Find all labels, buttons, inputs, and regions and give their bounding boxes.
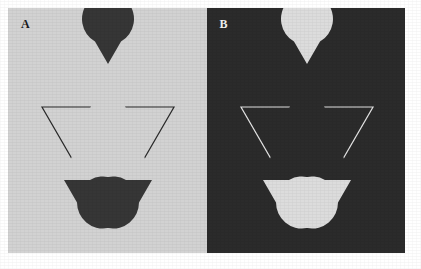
panel-label-b: B	[220, 18, 228, 30]
bottom-right-inducer-b	[286, 177, 351, 229]
top-inducer-a	[82, 8, 134, 64]
figure-root: A B	[0, 0, 421, 269]
panel-b: B	[207, 8, 406, 253]
panel-a-canvas	[8, 8, 207, 253]
top-inducer-b	[281, 8, 333, 64]
panel-a: A	[8, 8, 207, 253]
panel-b-canvas	[207, 8, 406, 253]
inducers-a	[64, 8, 152, 229]
panel-row: A B	[8, 8, 405, 253]
panel-label-a: A	[21, 18, 30, 30]
inducers-b	[263, 8, 351, 229]
bottom-right-inducer-a	[87, 177, 152, 229]
